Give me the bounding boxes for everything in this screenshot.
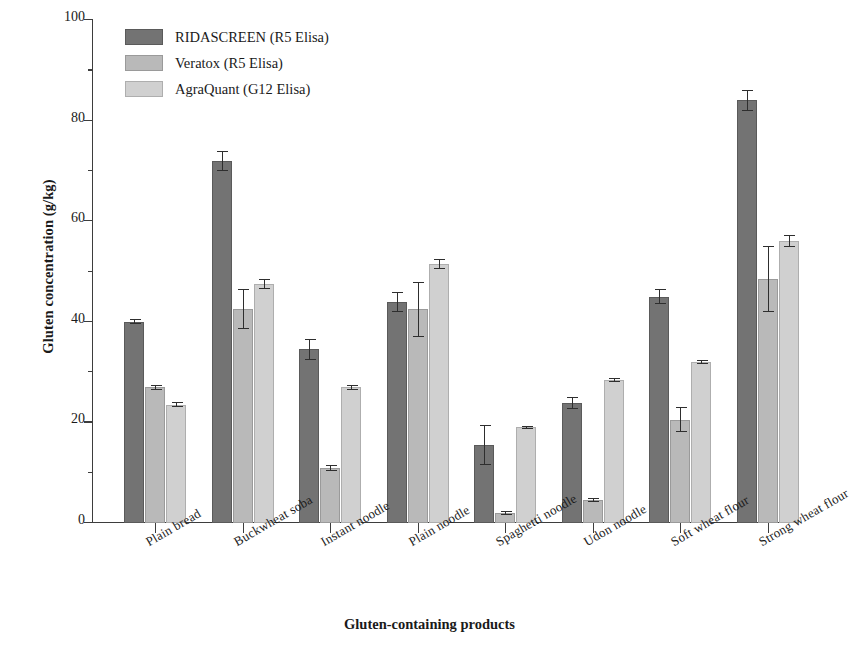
bar	[779, 241, 799, 523]
error-bar-cap	[172, 402, 183, 403]
y-axis-tick-label: 60	[25, 211, 85, 225]
legend-item: RIDASCREEN (R5 Elisa)	[125, 24, 329, 50]
error-bar	[309, 339, 310, 359]
error-bar-cap	[697, 360, 708, 361]
error-bar-cap	[655, 303, 666, 304]
error-bar	[614, 378, 615, 382]
bar	[604, 380, 624, 523]
error-bar-cap	[697, 363, 708, 364]
error-bar-cap	[392, 311, 403, 312]
error-bar-cap	[238, 328, 249, 329]
error-bar	[330, 465, 331, 471]
error-bar	[659, 289, 660, 304]
error-bar	[176, 402, 177, 407]
error-bar	[680, 407, 681, 432]
bar	[429, 264, 449, 523]
error-bar	[397, 292, 398, 312]
legend-item: Veratox (R5 Elisa)	[125, 50, 329, 76]
legend-item-label: Veratox (R5 Elisa)	[175, 55, 283, 72]
bar	[124, 322, 144, 523]
error-bar	[439, 259, 440, 269]
error-bar-cap	[742, 110, 753, 111]
error-bar-cap	[392, 292, 403, 293]
error-bar	[789, 235, 790, 247]
error-bar-cap	[413, 282, 424, 283]
error-bar-cap	[501, 511, 512, 512]
error-bar-cap	[501, 514, 512, 515]
bar	[670, 420, 690, 523]
error-bar	[351, 385, 352, 390]
error-bar-cap	[480, 464, 491, 465]
error-bar	[505, 511, 506, 515]
error-bar-cap	[305, 359, 316, 360]
y-axis-tick-label: 80	[25, 111, 85, 125]
bar	[387, 302, 407, 523]
error-bar	[747, 90, 748, 110]
y-axis-tick-label: 0	[25, 513, 85, 527]
x-axis-label: Gluten-containing products	[0, 616, 799, 633]
error-bar	[222, 151, 223, 171]
error-bar-cap	[522, 428, 533, 429]
error-bar-cap	[763, 246, 774, 247]
error-bar	[418, 282, 419, 337]
y-axis-tick-label: 100	[25, 10, 85, 24]
error-bar-cap	[347, 385, 358, 386]
error-bar	[243, 289, 244, 329]
error-bar-cap	[217, 151, 228, 152]
error-bar-cap	[217, 170, 228, 171]
bar	[583, 500, 603, 523]
legend-item-label: AgraQuant (G12 Elisa)	[175, 81, 310, 98]
bar	[649, 297, 669, 523]
error-bar-cap	[588, 501, 599, 502]
error-bar	[593, 498, 594, 502]
error-bar	[484, 425, 485, 465]
error-bar	[264, 279, 265, 289]
bar	[254, 284, 274, 523]
error-bar-cap	[676, 431, 687, 432]
error-bar	[768, 246, 769, 311]
y-axis-label: Gluten concentration (g/kg)	[40, 127, 57, 407]
error-bar	[526, 426, 527, 429]
error-bar-cap	[326, 465, 337, 466]
error-bar	[155, 385, 156, 390]
error-bar	[134, 319, 135, 324]
error-bar-cap	[609, 378, 620, 379]
error-bar-cap	[326, 470, 337, 471]
dark-gray-swatch	[125, 29, 163, 45]
error-bar-cap	[784, 235, 795, 236]
error-bar	[572, 397, 573, 409]
error-bar-cap	[609, 381, 620, 382]
error-bar-cap	[567, 397, 578, 398]
error-bar-cap	[305, 339, 316, 340]
y-axis-tick-label: 40	[25, 312, 85, 326]
error-bar-cap	[655, 289, 666, 290]
error-bar-cap	[413, 336, 424, 337]
error-bar-cap	[434, 259, 445, 260]
error-bar-cap	[238, 289, 249, 290]
bar	[212, 161, 232, 523]
medium-gray-swatch	[125, 55, 163, 71]
error-bar-cap	[347, 389, 358, 390]
error-bar-cap	[434, 268, 445, 269]
error-bar-cap	[130, 319, 141, 320]
bar	[691, 362, 711, 523]
light-gray-swatch	[125, 81, 163, 97]
error-bar-cap	[784, 246, 795, 247]
error-bar-cap	[480, 425, 491, 426]
error-bar-cap	[742, 90, 753, 91]
bar	[341, 387, 361, 523]
bar	[737, 100, 757, 523]
error-bar-cap	[259, 288, 270, 289]
bar	[233, 309, 253, 523]
bar	[145, 387, 165, 523]
bar	[320, 468, 340, 523]
y-axis-tick-label: 20	[25, 412, 85, 426]
error-bar-cap	[676, 407, 687, 408]
bar	[516, 427, 536, 523]
chart-legend: RIDASCREEN (R5 Elisa) Veratox (R5 Elisa)…	[125, 24, 329, 102]
error-bar-cap	[151, 385, 162, 386]
bar	[758, 279, 778, 523]
error-bar-cap	[763, 311, 774, 312]
error-bar-cap	[172, 406, 183, 407]
